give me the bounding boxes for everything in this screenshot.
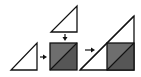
arrow-right-icon [40,55,47,60]
small-triangle-top [51,6,77,32]
combined-triangle [80,16,134,70]
small-triangle-left [11,43,37,70]
arrow-down-icon [63,34,68,41]
arrow-right-icon [85,48,95,53]
triangle-composition-diagram [0,0,141,77]
split-square [50,43,77,70]
